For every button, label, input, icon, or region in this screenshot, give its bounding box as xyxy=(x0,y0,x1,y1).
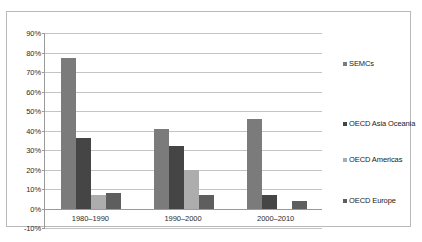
bar xyxy=(199,195,214,209)
x-axis-label: 1990–2000 xyxy=(137,214,230,223)
bar-group xyxy=(45,33,138,228)
bar xyxy=(91,195,106,209)
gridline--10 xyxy=(45,228,322,229)
y-tick-mark--10 xyxy=(42,228,45,229)
bar xyxy=(76,138,91,208)
legend-item[interactable]: OECD Europe xyxy=(343,196,396,206)
plot-inner: 90%80%70%60%50%40%30%20%10%0%-10% xyxy=(44,33,322,228)
legend-item[interactable]: OECD Americas xyxy=(343,155,402,165)
bar xyxy=(106,193,121,209)
legend-item[interactable]: OECD Asia Oceania xyxy=(343,119,415,129)
bar-group xyxy=(138,33,231,228)
bar xyxy=(169,146,184,208)
y-tick-label--10: -10% xyxy=(24,224,41,233)
bar xyxy=(292,201,307,209)
plot-area: 90%80%70%60%50%40%30%20%10%0%-10% 1980–1… xyxy=(44,33,322,228)
legend-label: OECD Asia Oceania xyxy=(349,119,415,129)
bar xyxy=(61,58,76,208)
legend-label: OECD Europe xyxy=(349,196,396,206)
y-tick-label-70: 70% xyxy=(26,68,41,77)
x-axis-label: 2000–2010 xyxy=(229,214,322,223)
legend-swatch-icon xyxy=(343,62,347,66)
legend-item[interactable]: SEMCs xyxy=(343,59,374,69)
y-tick-label-30: 30% xyxy=(26,146,41,155)
bar xyxy=(154,129,169,209)
chart-legend: SEMCsOECD Asia OceaniaOECD AmericasOECD … xyxy=(343,33,421,228)
chart-figure: 90%80%70%60%50%40%30%20%10%0%-10% 1980–1… xyxy=(0,0,422,242)
x-axis-label: 1980–1990 xyxy=(44,214,137,223)
bar xyxy=(262,195,277,209)
bar xyxy=(184,170,199,209)
bar xyxy=(247,119,262,209)
y-tick-label-50: 50% xyxy=(26,107,41,116)
legend-label: OECD Americas xyxy=(349,155,402,165)
legend-swatch-icon xyxy=(343,158,347,162)
y-tick-label-40: 40% xyxy=(26,126,41,135)
y-tick-label-10: 10% xyxy=(26,185,41,194)
legend-swatch-icon xyxy=(343,122,347,126)
y-tick-label-90: 90% xyxy=(26,29,41,38)
chart-frame: 90%80%70%60%50%40%30%20%10%0%-10% 1980–1… xyxy=(6,11,411,227)
y-tick-label-0: 0% xyxy=(30,204,41,213)
bar-group xyxy=(230,33,323,228)
legend-label: SEMCs xyxy=(349,59,374,69)
legend-swatch-icon xyxy=(343,199,347,203)
y-tick-label-80: 80% xyxy=(26,48,41,57)
y-tick-label-60: 60% xyxy=(26,87,41,96)
y-tick-label-20: 20% xyxy=(26,165,41,174)
